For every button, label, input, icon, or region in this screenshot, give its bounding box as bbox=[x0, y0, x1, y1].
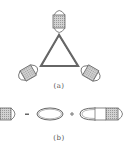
equals-sign bbox=[25, 114, 29, 116]
vertex-blob-top bbox=[53, 11, 65, 33]
diagram-canvas bbox=[0, 0, 130, 153]
triangle-outer bbox=[41, 35, 78, 66]
bare-loop bbox=[37, 108, 63, 120]
triangle-diagram bbox=[16, 11, 103, 84]
vertex-blob-right bbox=[79, 63, 103, 84]
dressed-loop bbox=[80, 107, 123, 121]
lhs-dressed-blob bbox=[0, 108, 15, 120]
vertex-blob-left bbox=[16, 63, 40, 84]
panel-a-label: (a) bbox=[53, 82, 64, 90]
propagator-equation bbox=[0, 107, 123, 121]
panel-b-label: (b) bbox=[53, 134, 64, 142]
plus-sign bbox=[70, 112, 74, 116]
